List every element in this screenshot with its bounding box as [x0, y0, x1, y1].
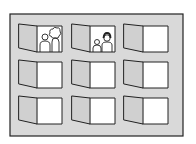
window-shutter — [72, 60, 90, 88]
window-shutter — [124, 96, 143, 124]
window-grid — [19, 24, 168, 124]
window-pane — [90, 62, 115, 88]
window-pane — [90, 26, 115, 52]
window-pane — [143, 26, 168, 52]
window-pane — [37, 98, 62, 124]
window — [72, 24, 115, 52]
window-shutter — [72, 24, 90, 52]
window — [19, 60, 62, 88]
window-shutter — [124, 24, 143, 52]
window-pane — [90, 98, 115, 124]
window-shutter — [72, 96, 90, 124]
window-shutter — [19, 96, 37, 124]
window — [124, 24, 168, 52]
window-shutter — [19, 24, 37, 52]
window — [19, 96, 62, 124]
window-pane — [37, 62, 62, 88]
window — [19, 24, 62, 52]
window — [124, 96, 168, 124]
window — [72, 96, 115, 124]
window — [124, 60, 168, 88]
window-pane — [143, 62, 168, 88]
window — [72, 60, 115, 88]
window-shutter — [19, 60, 37, 88]
window-shutter — [124, 60, 143, 88]
window-pane — [143, 98, 168, 124]
building-illustration — [0, 0, 196, 144]
